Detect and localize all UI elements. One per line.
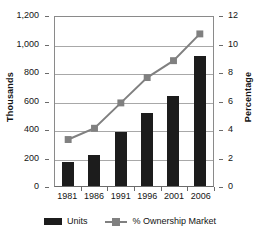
y-axis-left-tick-mark [45,102,49,103]
legend-swatch-line-icon [105,217,127,226]
y-axis-right-tick-label: 12 [228,11,238,20]
y-axis-left-tick-label: 600 [24,97,39,106]
y-axis-left-tick-mark [45,159,49,160]
x-axis-label-1996: 1996 [134,191,161,205]
y-axis-left-tick-label: 1,200 [16,11,39,20]
y-axis-right-tick-mark [219,73,223,74]
y-axis-right-tick-mark [219,16,223,17]
y-axis-right-tick-label: 4 [228,125,233,134]
y-axis-right-tick-mark [219,102,223,103]
y-axis-right-tick-label: 0 [228,182,233,191]
y-axis-right-tick-label: 6 [228,97,233,106]
x-axis-label-2006: 2006 [187,191,214,205]
y-axis-left-tick-mark [45,73,49,74]
y-axis-left-ticks: 02004006008001,0001,200 [0,16,49,187]
x-axis-label-1986: 1986 [81,191,108,205]
x-axis-tick-mark [214,187,215,191]
x-axis-labels: 198119861991199620012006 [54,191,214,205]
chart-legend: Units % Ownership Market [0,216,260,226]
plot-area [54,16,214,187]
x-axis-label-2001: 2001 [161,191,188,205]
y-axis-left-tick-label: 200 [24,154,39,163]
y-axis-right-tick-mark [219,187,223,188]
legend-label-ownership-market: % Ownership Market [132,216,216,226]
y-axis-left-tick-label: 0 [34,182,39,191]
chart-container: Thousands Percentage 02004006008001,0001… [0,0,260,243]
y-axis-right-tick-label: 10 [228,40,238,49]
line-marker-1986 [91,125,98,132]
y-axis-right-ticks: 024681012 [219,16,249,187]
line-marker-2006 [196,30,203,37]
legend-item-units: Units [44,216,88,226]
ownership-market-line [68,34,200,140]
line-marker-1991 [117,99,124,106]
line-marker-1981 [65,136,72,143]
legend-item-ownership-market: % Ownership Market [105,216,216,226]
y-axis-right-tick-label: 8 [228,68,233,77]
x-axis-label-1991: 1991 [107,191,134,205]
y-axis-left-tick-label: 400 [24,125,39,134]
x-axis-label-1981: 1981 [54,191,81,205]
line-marker-2001 [170,57,177,64]
y-axis-left-tick-mark [45,187,49,188]
y-axis-left-tick-mark [45,45,49,46]
y-axis-right-tick-mark [219,130,223,131]
y-axis-right-tick-mark [219,159,223,160]
y-axis-left-tick-mark [45,130,49,131]
legend-swatch-bar-icon [44,218,62,225]
line-series-ownership-market [55,17,213,186]
line-marker-1996 [144,74,151,81]
y-axis-left-tick-label: 800 [24,68,39,77]
y-axis-right-tick-label: 2 [228,154,233,163]
legend-label-units: Units [67,216,88,226]
y-axis-left-tick-mark [45,16,49,17]
y-axis-right-tick-mark [219,45,223,46]
y-axis-left-tick-label: 1,000 [16,40,39,49]
